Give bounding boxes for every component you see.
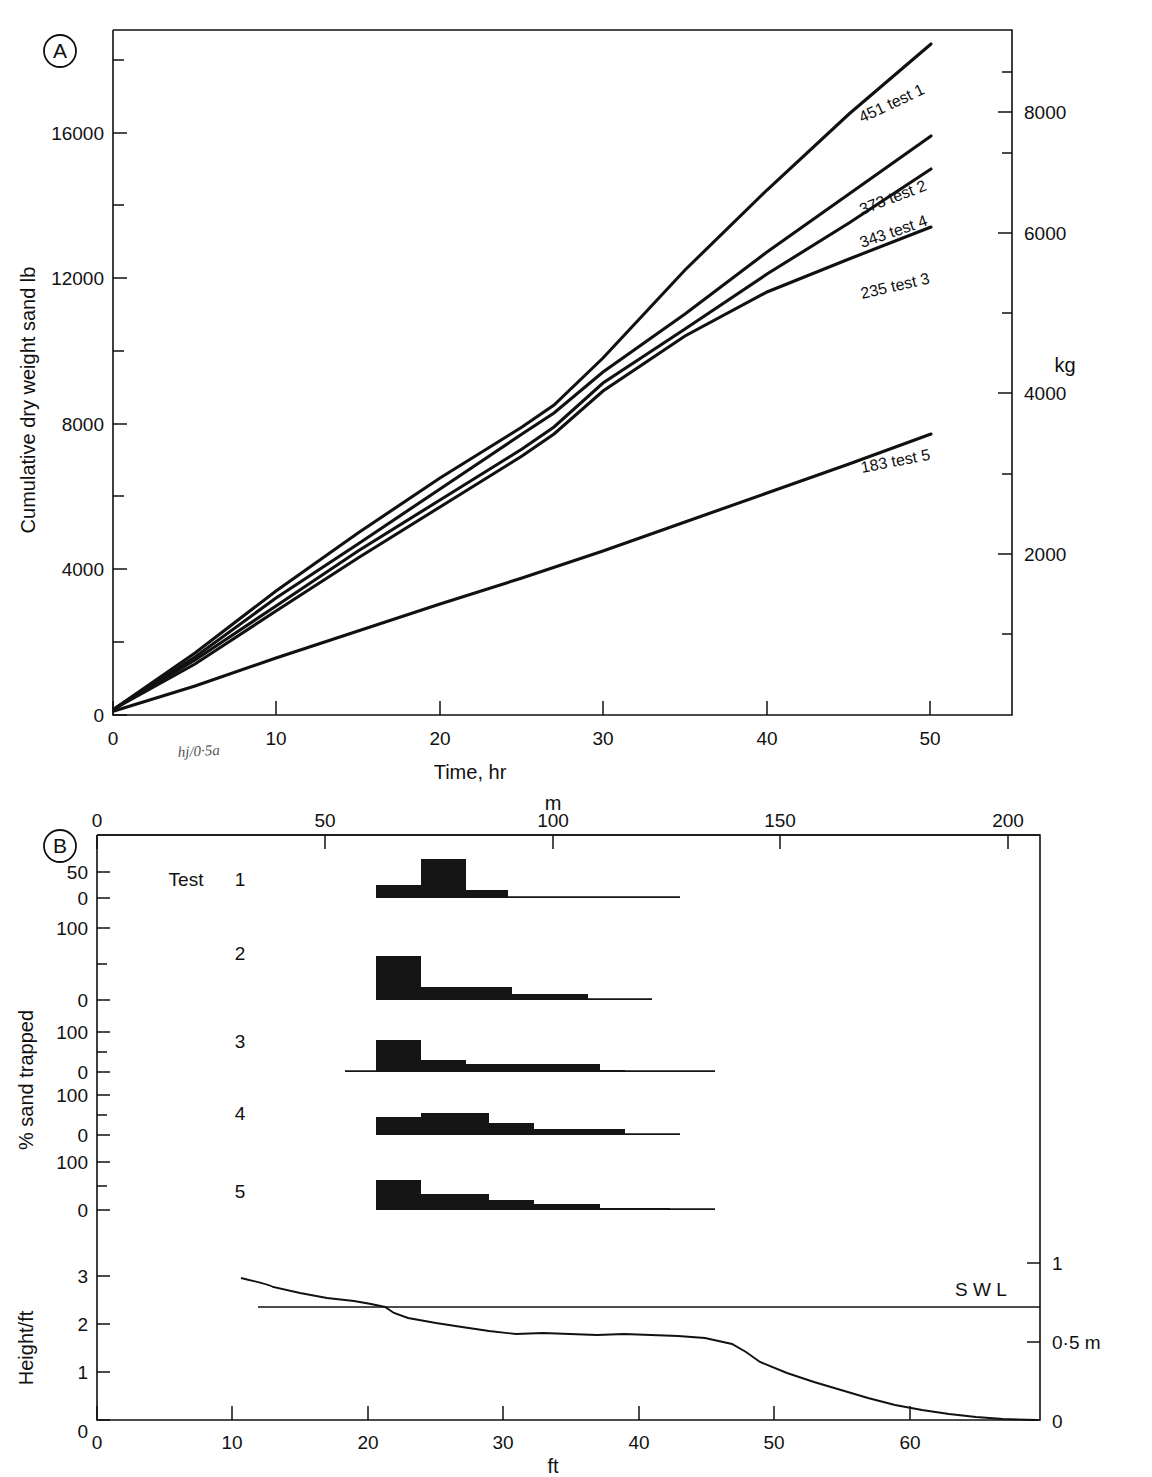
x-tick-10: 10 <box>265 728 286 749</box>
histogram-test-5 <box>376 1180 715 1210</box>
y-tick-4000: 4000 <box>62 559 104 580</box>
pct-tick-t1-0: 0 <box>77 888 88 909</box>
histogram-test-4 <box>376 1113 680 1135</box>
test-prefix-label: Test <box>169 869 205 890</box>
m-tick-200: 200 <box>992 810 1024 831</box>
y-tick-12000: 12000 <box>51 268 104 289</box>
ft-tick-0: 0 <box>92 1432 103 1453</box>
swl-label: S W L <box>955 1279 1007 1300</box>
histogram-test-2 <box>376 956 652 1000</box>
figure-page: A 0 4000 8000 <box>0 0 1152 1477</box>
profile-y-axis-title: Height/ft <box>15 1310 37 1385</box>
ft-tick-40: 40 <box>628 1432 649 1453</box>
panel-a-y-ticks <box>113 60 127 715</box>
curve-test-5 <box>114 434 931 711</box>
test-label-4: 4 <box>235 1103 246 1124</box>
test-label-3: 3 <box>235 1031 246 1052</box>
pct-tick-t5-0: 0 <box>77 1200 88 1221</box>
panel-a-y-axis-title: Cumulative dry weight sand lb <box>17 267 39 534</box>
pct-tick-t5-100: 100 <box>56 1152 88 1173</box>
m-tick-50: 50 <box>314 810 335 831</box>
m-tick-0: 0 <box>92 810 103 831</box>
ft-tick-50: 50 <box>763 1432 784 1453</box>
profile-x-axis-title: ft <box>547 1455 559 1477</box>
panel-b-test-labels: Test 1 2 3 4 5 <box>169 869 246 1202</box>
profile-right-tick-labels: 0 0·5 m 1 <box>1052 1253 1101 1432</box>
x-tick-30: 30 <box>592 728 613 749</box>
panel-a-right-axis-unit: kg <box>1054 354 1075 376</box>
curve-label-test-2: 373 test 2 <box>857 177 929 218</box>
beach-profile-curve <box>241 1278 1037 1420</box>
pct-tick-t1-50: 50 <box>67 862 88 883</box>
y-tick-16000: 16000 <box>51 123 104 144</box>
y-tick-0: 0 <box>93 705 104 726</box>
handwritten-note: hj/0·5a <box>177 742 220 760</box>
curve-label-test-5: 183 test 5 <box>859 446 931 476</box>
panel-a-right-ticks <box>998 72 1012 634</box>
profile-x-tick-labels: 0 10 20 30 40 50 60 <box>92 1432 921 1453</box>
y-tick-8000: 8000 <box>62 414 104 435</box>
panel-a-x-ticks <box>113 701 930 715</box>
pct-tick-t4-0: 0 <box>77 1125 88 1146</box>
panel-a-x-tick-labels: 0 10 20 30 40 50 <box>108 728 941 749</box>
kg-tick-2000: 2000 <box>1024 544 1066 565</box>
panel-b-pct-tick-labels: 50 0 100 0 100 0 100 0 100 0 <box>56 862 88 1221</box>
panel-a-right-tick-labels: 2000 4000 6000 8000 <box>1024 102 1066 565</box>
panel-a-letter: A <box>44 35 76 67</box>
histogram-test-3 <box>345 1040 715 1072</box>
panel-b-y-axis-title: % sand trapped <box>15 1010 37 1150</box>
profile-y-tick-3: 3 <box>77 1266 88 1287</box>
panel-a-y-tick-labels: 0 4000 8000 12000 16000 <box>51 123 104 726</box>
x-tick-50: 50 <box>919 728 940 749</box>
m-tick-150: 150 <box>764 810 796 831</box>
kg-tick-8000: 8000 <box>1024 102 1066 123</box>
ft-tick-60: 60 <box>899 1432 920 1453</box>
panel-a-svg: A 0 4000 8000 <box>0 0 1152 790</box>
test-label-2: 2 <box>235 943 246 964</box>
test-label-5: 5 <box>235 1181 246 1202</box>
profile-y-tick-2: 2 <box>77 1314 88 1335</box>
panel-b-top-ticks <box>97 835 1008 849</box>
panel-b-pct-ticks <box>97 872 110 1210</box>
panel-b-svg: B m 0 50 100 150 200 % sand tr <box>0 790 1152 1477</box>
pct-tick-t2-100: 100 <box>56 918 88 939</box>
test-label-1: 1 <box>235 869 246 890</box>
x-tick-0: 0 <box>108 728 119 749</box>
curve-test-1 <box>114 44 931 709</box>
curve-label-test-1: 451 test 1 <box>856 81 927 126</box>
x-tick-20: 20 <box>429 728 450 749</box>
profile-right-tick-0-5: 0·5 m <box>1052 1332 1101 1353</box>
panel-b-frame <box>97 835 1040 1420</box>
panel-a-x-axis-title: Time, hr <box>434 761 507 783</box>
pct-tick-t4-100: 100 <box>56 1085 88 1106</box>
profile-x-ticks <box>97 1406 910 1420</box>
ft-tick-10: 10 <box>221 1432 242 1453</box>
profile-right-tick-1: 1 <box>1052 1253 1063 1274</box>
panel-b-letter-text: B <box>53 834 67 857</box>
curve-test-3 <box>114 227 931 709</box>
kg-tick-4000: 4000 <box>1024 383 1066 404</box>
pct-tick-t3-0: 0 <box>77 1062 88 1083</box>
pct-tick-t3-100: 100 <box>56 1022 88 1043</box>
panel-b-letter: B <box>44 830 76 862</box>
panel-b-top-tick-labels: 0 50 100 150 200 <box>92 810 1024 831</box>
panel-a: A 0 4000 8000 <box>0 0 1152 790</box>
m-tick-100: 100 <box>537 810 569 831</box>
panel-a-letter-text: A <box>53 39 67 62</box>
curve-label-test-3: 235 test 3 <box>859 270 931 302</box>
histogram-test-1 <box>376 859 680 898</box>
profile-y-tick-labels: 0 1 2 3 <box>77 1266 88 1442</box>
profile-right-ticks <box>1027 1263 1040 1420</box>
kg-tick-6000: 6000 <box>1024 223 1066 244</box>
profile-right-tick-0: 0 <box>1052 1411 1063 1432</box>
profile-y-ticks <box>97 1276 110 1420</box>
curve-label-test-4: 343 test 4 <box>857 212 929 251</box>
pct-tick-t2-0: 0 <box>77 990 88 1011</box>
profile-y-tick-0: 0 <box>77 1421 88 1442</box>
x-tick-40: 40 <box>756 728 777 749</box>
ft-tick-20: 20 <box>357 1432 378 1453</box>
ft-tick-30: 30 <box>492 1432 513 1453</box>
profile-y-tick-1: 1 <box>77 1362 88 1383</box>
panel-b: B m 0 50 100 150 200 % sand tr <box>0 790 1152 1477</box>
